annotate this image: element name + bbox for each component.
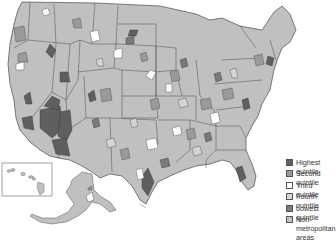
legend-item-highest-quintile: Highest quintile [286,158,326,169]
second-quintile-swatch [286,170,293,177]
hawaii-inset-box [2,163,52,196]
legend-item-second-quintile: Second quintile [286,169,326,180]
non-metropolitan-swatch [286,216,293,223]
map-legend: Highest quintile Second quintile Third q… [286,158,326,235]
highest-quintile-swatch [286,159,293,166]
lowest-quintile-swatch [286,205,293,212]
legend-item-non-metropolitan: Non-metropolitan areas [286,215,326,235]
third-quintile-swatch [286,182,293,189]
legend-item-third-quintile: Third quintile [286,181,326,192]
legend-item-fourth-quintile: Fourth quintile [286,192,326,203]
legend-label: Non-metropolitan areas [296,215,326,240]
legend-item-lowest-quintile: Lowest quintile [286,204,326,215]
fourth-quintile-swatch [286,193,293,200]
